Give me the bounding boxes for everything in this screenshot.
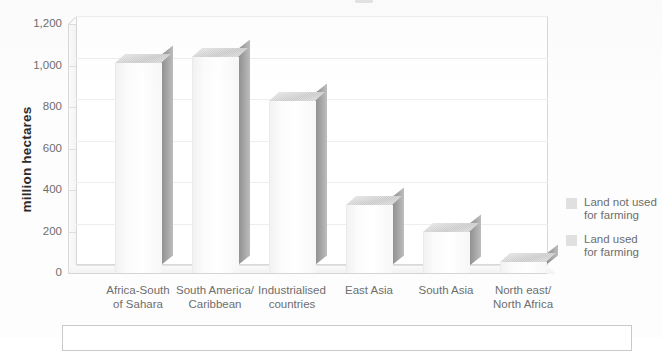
bar-side-face: [161, 46, 173, 265]
y-tick-mark: [68, 149, 77, 150]
y-tick-mark: [68, 107, 77, 108]
y-tick-label: 200: [6, 226, 62, 238]
x-axis-label-line: countries: [237, 298, 347, 312]
bar-side-face: [469, 214, 481, 265]
legend-item[interactable]: Land not used for farming: [566, 196, 657, 222]
y-tick-mark: [68, 66, 77, 67]
bar-front-face: [346, 205, 393, 273]
y-tick-label: 600: [6, 143, 62, 155]
bar-front-face: [269, 101, 316, 273]
bar-top-face: [346, 196, 402, 205]
x-axis-label-line: North east/: [468, 284, 578, 298]
bar-column[interactable]: [346, 196, 392, 273]
y-tick-label: 0: [6, 267, 62, 279]
chart-floor-right-corner: [547, 265, 556, 274]
chart-legend: Land not used for farmingLand used for f…: [566, 196, 657, 270]
bottom-frame-box: [62, 325, 632, 351]
y-tick-label: 1,200: [6, 18, 62, 30]
y-tick-mark: [68, 190, 77, 191]
bar-top-face: [500, 253, 556, 262]
bar-top-face: [423, 223, 479, 232]
bar-top-face: [269, 92, 325, 101]
legend-item[interactable]: Land used for farming: [566, 233, 657, 259]
bar-front-face: [192, 57, 239, 273]
legend-swatch: [566, 198, 577, 209]
bar-column[interactable]: [269, 92, 315, 273]
bar-side-face: [315, 83, 327, 265]
legend-label: Land not used for farming: [584, 196, 657, 222]
bar-column[interactable]: [423, 223, 469, 274]
bar-front-face: [115, 63, 162, 273]
y-tick-label: 1,000: [6, 60, 62, 72]
bar-column[interactable]: [500, 253, 546, 273]
bar-front-face: [500, 262, 547, 273]
bar-front-face: [423, 232, 470, 274]
bar-column[interactable]: [192, 48, 238, 273]
chart-floor-left-edge: [68, 265, 69, 274]
legend-swatch: [566, 235, 577, 246]
y-tick-label: 800: [6, 101, 62, 113]
y-tick-mark: [68, 232, 77, 233]
x-axis-label-line: North Africa: [468, 298, 578, 312]
legend-label: Land used for farming: [584, 233, 639, 259]
y-tick-mark: [68, 24, 77, 25]
y-tick-label: 400: [6, 184, 62, 196]
chart-floor-front-edge: [68, 273, 548, 274]
gridline: [76, 16, 548, 17]
bar-side-face: [238, 40, 250, 265]
x-axis-label: North east/North Africa: [468, 284, 578, 311]
bar-column[interactable]: [115, 54, 161, 273]
